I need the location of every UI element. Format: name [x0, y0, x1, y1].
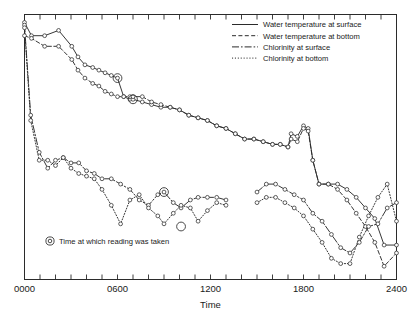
- data-point: [283, 201, 287, 205]
- data-point: [354, 211, 358, 215]
- data-point: [92, 177, 96, 181]
- data-point: [122, 95, 126, 99]
- data-point: [320, 219, 324, 223]
- data-point: [140, 100, 144, 104]
- data-point: [128, 188, 132, 192]
- data-point: [278, 142, 282, 146]
- data-point: [171, 201, 175, 205]
- data-point: [326, 182, 330, 186]
- data-point: [395, 219, 399, 223]
- data-point: [336, 182, 340, 186]
- data-point: [289, 137, 293, 141]
- chart-legend: Water temperature at surfaceWater temper…: [232, 20, 361, 63]
- data-point: [302, 198, 306, 202]
- data-point: [215, 124, 219, 128]
- data-point: [317, 182, 321, 186]
- data-point: [159, 103, 163, 107]
- data-point: [283, 188, 287, 192]
- data-point: [382, 243, 386, 247]
- data-point: [187, 113, 191, 117]
- data-point: [302, 214, 306, 218]
- data-point: [23, 34, 27, 38]
- data-point: [286, 145, 290, 149]
- data-point: [320, 241, 324, 245]
- data-point: [289, 132, 293, 136]
- x-axis-tick-labels: 00000600120018002400: [14, 283, 407, 294]
- data-point: [233, 132, 237, 136]
- data-point: [128, 198, 132, 202]
- data-point: [156, 193, 160, 197]
- chart-canvas: 00000600120018002400 Time Water temperat…: [0, 0, 420, 314]
- data-point: [109, 203, 113, 207]
- data-point: [77, 161, 81, 165]
- series-line-water-temperature-at-surface: [25, 22, 397, 245]
- data-point: [345, 188, 349, 192]
- data-point: [61, 156, 65, 160]
- data-point: [336, 188, 340, 192]
- data-point: [100, 177, 104, 181]
- data-point: [311, 211, 315, 215]
- data-point: [43, 44, 47, 48]
- data-point: [188, 206, 192, 210]
- data-point: [116, 95, 120, 99]
- data-point: [243, 137, 247, 141]
- data-point: [364, 206, 368, 210]
- data-point: [76, 68, 80, 72]
- data-point: [382, 264, 386, 268]
- data-point: [357, 235, 361, 239]
- data-point: [147, 206, 151, 210]
- data-point: [295, 135, 299, 139]
- data-point: [339, 262, 343, 266]
- data-point: [330, 256, 334, 260]
- data-point: [140, 95, 144, 99]
- data-point: [137, 193, 141, 197]
- data-point: [357, 241, 361, 245]
- data-point: [54, 164, 58, 168]
- legend-label: Chlorinity at surface: [263, 43, 330, 52]
- data-point: [252, 137, 256, 141]
- series-line-water-temperature-at-bottom: [25, 36, 397, 267]
- reading-marker-icon-inner: [48, 239, 52, 243]
- data-point: [188, 198, 192, 202]
- x-tick-label: 2400: [386, 283, 407, 294]
- x-tick-label: 0000: [14, 283, 35, 294]
- data-point: [83, 63, 87, 67]
- data-point: [196, 219, 200, 223]
- data-point: [295, 140, 299, 144]
- reading-note: Time at which reading was taken: [46, 237, 169, 246]
- data-point: [271, 142, 275, 146]
- data-point: [224, 203, 228, 207]
- data-point: [376, 222, 380, 226]
- data-point: [264, 195, 268, 199]
- data-point: [57, 29, 61, 33]
- data-point: [196, 195, 200, 199]
- data-point: [395, 251, 399, 255]
- data-point: [395, 201, 399, 205]
- data-point: [69, 166, 73, 170]
- data-point: [29, 113, 33, 117]
- data-point: [119, 222, 123, 226]
- data-point: [339, 246, 343, 250]
- data-point: [109, 74, 113, 78]
- data-point: [255, 190, 259, 194]
- data-point: [354, 195, 358, 199]
- chart-figure: 00000600120018002400 Time Water temperat…: [0, 0, 420, 314]
- reading-marker-icon: [46, 237, 54, 245]
- data-point: [261, 140, 265, 144]
- data-point: [255, 201, 259, 205]
- data-point: [43, 34, 47, 38]
- data-point: [30, 36, 34, 40]
- data-point: [100, 188, 104, 192]
- data-point: [224, 198, 228, 202]
- data-point: [97, 68, 101, 72]
- data-point: [224, 127, 228, 131]
- data-point: [311, 158, 315, 162]
- data-point: [179, 203, 183, 207]
- data-point: [46, 166, 50, 170]
- data-point: [150, 100, 154, 104]
- data-point: [302, 127, 306, 131]
- x-tick-label: 1200: [200, 283, 221, 294]
- data-point: [292, 206, 296, 210]
- data-point: [103, 71, 107, 75]
- series-line-chlorinity-at-surface: [25, 25, 227, 208]
